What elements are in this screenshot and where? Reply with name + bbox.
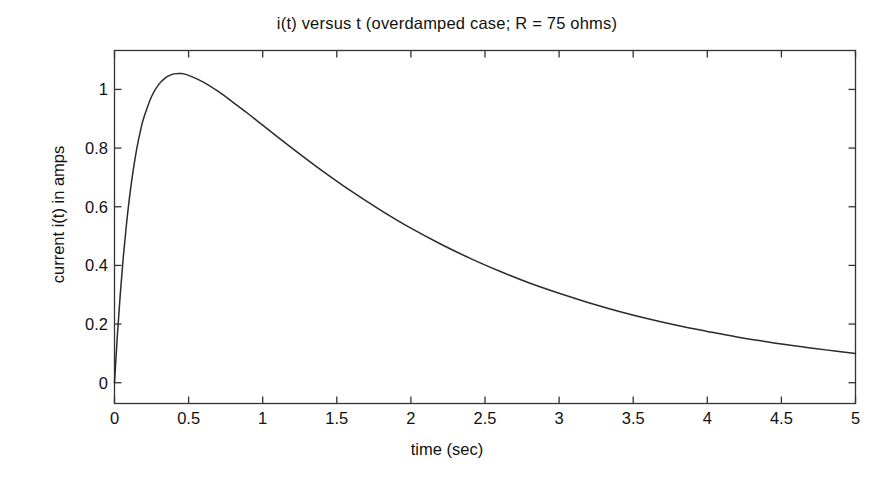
x-tick-label: 3 <box>555 409 564 428</box>
data-series <box>115 73 856 382</box>
x-tick-label: 4 <box>703 409 712 428</box>
y-tick-label: 0 <box>99 373 108 392</box>
x-tick-label: 0 <box>110 409 119 428</box>
plot-area <box>0 0 894 480</box>
axis-ticks <box>115 51 856 404</box>
x-tick-label: 1.5 <box>325 409 348 428</box>
x-tick-label: 5 <box>851 409 860 428</box>
y-tick-label: 0.4 <box>85 256 108 275</box>
x-tick-label: 1 <box>258 409 267 428</box>
x-tick-label: 2 <box>406 409 415 428</box>
x-tick-label: 4.5 <box>770 409 793 428</box>
y-tick-label-layer: 00.20.40.60.81 <box>0 0 108 480</box>
x-tick-label: 0.5 <box>177 409 200 428</box>
x-tick-label: 3.5 <box>622 409 645 428</box>
figure-canvas: i(t) versus t (overdamped case; R = 75 o… <box>0 0 894 480</box>
y-tick-label: 1 <box>99 80 108 99</box>
y-tick-label: 0.2 <box>85 315 108 334</box>
y-tick-label: 0.8 <box>85 139 108 158</box>
axes-frame <box>115 51 856 404</box>
x-tick-label: 2.5 <box>474 409 497 428</box>
y-tick-label: 0.6 <box>85 197 108 216</box>
